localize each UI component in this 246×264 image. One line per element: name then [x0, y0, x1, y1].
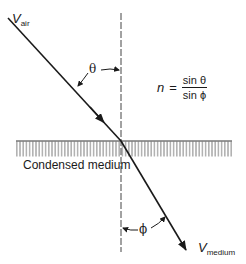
refracted-ray [121, 141, 186, 250]
incident-ray [8, 18, 121, 141]
equation-lhs: n [157, 80, 164, 95]
interface-hatching [16, 142, 232, 157]
incident-velocity-subscript: air [21, 19, 30, 28]
refracted-velocity-subscript: medium [207, 248, 235, 257]
refracted-velocity-symbol: V [198, 240, 207, 255]
incident-velocity-symbol: V [12, 11, 21, 26]
incident-ray-arrow-icon [90, 107, 104, 123]
equation-fraction: sin θ sin ϕ [182, 74, 207, 101]
phi-arc-right-icon [151, 217, 165, 228]
refracted-angle-label: ϕ [139, 222, 147, 236]
equation-equals: = [169, 80, 177, 95]
refraction-diagram: Vair θ n = sin θ sin ϕ Condensed medium … [0, 0, 246, 264]
medium-label: Condensed medium [23, 158, 130, 172]
phi-arc-left-icon [123, 228, 138, 230]
incident-angle-label: θ [89, 62, 96, 76]
theta-arc-right-icon [101, 69, 119, 70]
diagram-canvas [0, 0, 246, 264]
theta-arc-left-icon [78, 73, 88, 86]
snell-equation: n = sin θ sin ϕ [157, 74, 207, 101]
refracted-velocity-label: Vmedium [198, 240, 235, 257]
equation-numerator: sin θ [182, 74, 207, 88]
incident-velocity-label: Vair [12, 11, 30, 28]
equation-denominator: sin ϕ [183, 88, 206, 101]
